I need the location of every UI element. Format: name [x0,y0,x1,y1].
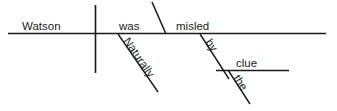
word-prep-object: clue [236,57,257,69]
word-article: the [231,73,250,93]
word-adverb: Naturally [121,35,157,79]
word-verb: was [118,20,140,32]
word-preposition: by [203,37,220,54]
sentence-diagram-canvas: Watson was misled clue Naturally by the [0,0,337,111]
word-complement: misled [176,20,209,32]
complement-divider [152,2,166,34]
sentence-diagram: Watson was misled clue Naturally by the [0,0,337,111]
word-subject: Watson [22,20,61,32]
